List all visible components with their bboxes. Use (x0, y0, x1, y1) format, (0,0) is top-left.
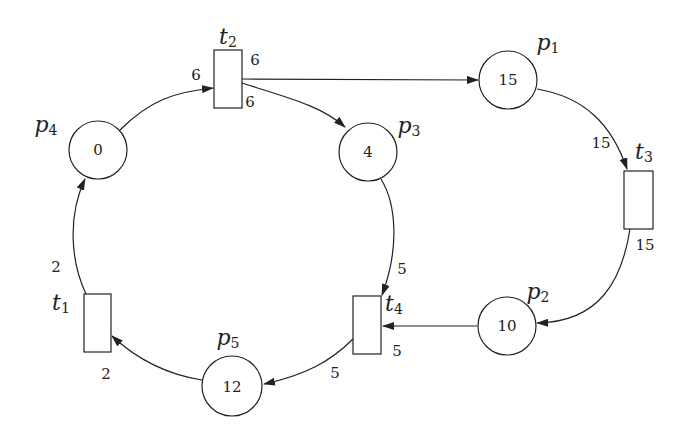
weight-p4-t2: 6 (191, 66, 201, 84)
place-p2: 10 p2 (478, 279, 550, 356)
arc-p5-t1 (112, 336, 202, 380)
weight-t1-p4: 2 (51, 258, 61, 276)
weight-p2-t4: 5 (392, 342, 402, 360)
arcs (73, 79, 630, 384)
token-count: 4 (363, 143, 373, 161)
place-label: p4 (34, 112, 57, 139)
arc-t2-p1 (242, 79, 478, 80)
place-p3: 4 p3 (339, 113, 421, 182)
weight-t2-p1: 6 (250, 51, 260, 69)
arc-t2-p3 (242, 83, 345, 127)
arc-p4-t2 (120, 88, 213, 130)
arc-p3-t4 (381, 179, 394, 295)
token-count: 12 (222, 378, 241, 396)
weight-t2-p3: 6 (245, 93, 255, 111)
transition-label: t3 (635, 139, 653, 166)
transition-label: t4 (385, 291, 403, 318)
petri-net-diagram: 15 p1 10 p2 4 p3 0 p4 12 p5 t1 t2 t3 t4 … (0, 0, 689, 441)
weight-t4-p5: 5 (330, 364, 340, 382)
transition-label: t1 (52, 290, 70, 317)
place-label: p1 (536, 30, 559, 57)
place-label: p2 (526, 279, 549, 306)
place-label: p3 (397, 113, 420, 140)
place-p1: 15 p1 (479, 30, 560, 110)
weight-p3-t4: 5 (397, 260, 407, 278)
transition-label: t2 (219, 24, 237, 51)
arc-t3-p2 (537, 229, 630, 323)
transition-t1: t1 (52, 290, 111, 353)
token-count: 10 (497, 317, 516, 335)
token-count: 15 (498, 71, 517, 89)
place-p4: 0 p4 (34, 112, 127, 180)
arc-p1-t3 (537, 89, 627, 169)
transition-t3: t3 (624, 139, 653, 230)
transition-t2: t2 (214, 24, 242, 109)
weight-p1-t3: 15 (591, 134, 610, 152)
weight-t3-p2: 15 (635, 236, 654, 254)
place-p5: 12 p5 (202, 325, 262, 417)
place-label: p5 (216, 325, 239, 352)
token-count: 0 (93, 141, 103, 159)
weight-p5-t1: 2 (101, 365, 111, 383)
arc-t1-p4 (73, 179, 86, 294)
